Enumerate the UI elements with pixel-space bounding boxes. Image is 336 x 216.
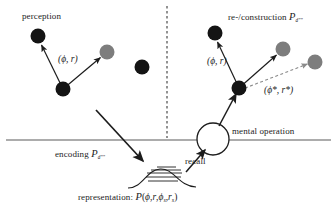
encoding-subscript: d″″ [98,154,106,160]
mental-operation-label: mental operation [232,127,294,136]
figure-canvas: perception re-/construction Pd″″ (ϕ, r) … [0,0,336,216]
encoding-label: encoding Pd″″ [55,149,105,160]
reconstruction-origin-dot [232,81,247,96]
reconstruction-label: re-/construction Pd″″ [228,12,303,23]
perception-origin-dot [56,82,71,97]
reconstruction-star-dot [308,55,323,70]
phi-r-right-label: (ϕ, r) [207,57,227,67]
perception-extra-dot [135,60,150,75]
perception-label: perception [22,12,61,21]
perception-target-dot [31,29,46,44]
reconstruction-target-dot [208,26,223,41]
representation-label-text: representation: [78,192,133,202]
representation-label: representation: P(ϕ,r,ϕs,rs) [78,192,177,203]
mental-operation-circle [197,123,229,155]
perception-gray-dot [100,45,115,60]
mental-operation-output-arrow [219,94,236,126]
encoding-label-text: encoding [55,149,89,159]
phi-r-left-label: (ϕ, r) [58,55,78,65]
representation-bump [128,167,196,188]
reconstruction-label-text: re-/construction [228,12,287,22]
reconstruction-gray-dot [276,42,291,57]
diagram-vector-layer [0,0,336,216]
phi-r-star-label: (ϕ*, r*) [264,86,293,96]
recall-label: recall [185,157,206,166]
formula-close-paren: ) [174,192,177,202]
reconstruction-subscript: d″″ [295,17,303,23]
